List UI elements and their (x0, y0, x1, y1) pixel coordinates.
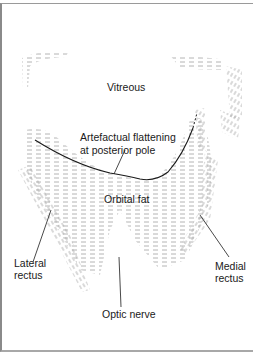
optic-nerve-leader-line (119, 257, 121, 307)
lateral-rectus-leader-line (33, 210, 51, 262)
flattening-label-line1: Artefactual flattening (80, 131, 176, 143)
flattening-label-line2: at posterior pole (80, 144, 155, 156)
medial-rectus-label-line1: Medial (215, 260, 246, 272)
vitreous-label: Vitreous (107, 81, 145, 93)
orbital-fat-label: Orbital fat (104, 193, 150, 205)
optic-nerve-label: Optic nerve (102, 308, 156, 320)
orbit-ultrasound-illustration (0, 0, 255, 354)
medial-rectus-label-line2: rectus (215, 272, 244, 284)
lateral-rectus-label-line1: Lateral (14, 257, 46, 269)
lateral-rectus-label-line2: rectus (14, 269, 43, 281)
globe-wall-upper-right (170, 55, 225, 70)
globe-wall-upper-left (22, 52, 68, 88)
medial-rectus-leader-line (200, 215, 229, 257)
globe-wall-right-side (226, 66, 242, 118)
